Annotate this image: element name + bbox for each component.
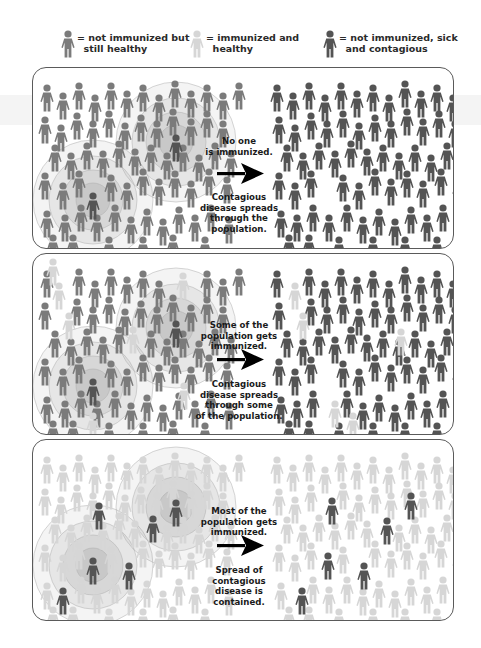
person-icon — [436, 390, 449, 417]
person-icon — [430, 84, 443, 111]
person-icon — [424, 526, 437, 553]
person-icon — [156, 404, 169, 431]
person-icon — [304, 112, 317, 139]
caption-bottom: Contagious disease spreads through the p… — [195, 192, 283, 234]
person-icon — [336, 546, 349, 573]
person-icon — [320, 306, 333, 333]
person-icon — [432, 296, 445, 323]
person-icon — [430, 270, 443, 297]
panel-no-immunization: No one is immunized. Contagious disease … — [32, 67, 454, 249]
caption-bottom: Spread of contagious disease is containe… — [195, 565, 283, 607]
person-icon — [56, 92, 69, 119]
person-icon — [340, 576, 353, 603]
person-icon — [420, 214, 433, 241]
person-icon — [350, 276, 363, 303]
person-icon — [384, 306, 397, 333]
caption-top: Some of the population gets immunized. — [195, 320, 283, 352]
person-icon — [356, 216, 369, 243]
person-icon — [306, 390, 319, 417]
person-icon — [398, 266, 411, 293]
person-icon — [334, 82, 347, 109]
person-icon — [270, 84, 283, 111]
person-icon — [392, 152, 405, 179]
person-icon — [384, 178, 397, 205]
person-icon — [434, 354, 447, 381]
person-icon-sick — [357, 562, 370, 589]
person-icon — [352, 182, 365, 209]
person-icon — [352, 122, 365, 149]
person-icon — [452, 176, 453, 203]
person-icon — [368, 300, 381, 327]
person-icon — [366, 456, 379, 483]
person-icon — [408, 144, 421, 171]
person-icon — [334, 268, 347, 295]
person-icon — [328, 336, 341, 363]
person-icon — [352, 494, 365, 521]
person-icon — [430, 422, 443, 434]
person-icon — [56, 464, 69, 491]
person-icon — [446, 466, 453, 493]
person-icon — [38, 488, 51, 515]
person-icon — [166, 234, 179, 248]
person-icon — [104, 268, 117, 295]
person-icon — [332, 236, 345, 248]
legend: = not immunized but still healthy = immu… — [0, 30, 481, 62]
person-icon — [372, 208, 385, 235]
person-icon — [232, 268, 245, 295]
person-icon — [322, 586, 335, 613]
person-icon — [440, 142, 453, 169]
person-icon — [416, 304, 429, 331]
person-icon — [302, 454, 315, 481]
person-icon — [416, 366, 429, 393]
legend-item-not-immunized-healthy: = not immunized but still healthy — [61, 30, 189, 58]
person-icon — [436, 576, 449, 603]
person-icon — [286, 92, 299, 119]
legend-label: = not immunized but still healthy — [77, 30, 189, 54]
legend-item-immunized-healthy: = immunized and healthy — [190, 30, 299, 58]
person-icon — [366, 608, 379, 620]
person-icon — [384, 364, 397, 391]
person-icon — [302, 234, 315, 248]
person-icon — [102, 110, 115, 137]
person-icon — [166, 420, 179, 434]
person-icon — [430, 608, 443, 620]
person-icon — [398, 608, 411, 620]
person-icon — [88, 94, 101, 121]
person-icon — [384, 120, 397, 147]
person-icon — [398, 236, 411, 248]
person-icon — [416, 490, 429, 517]
person-icon — [414, 90, 427, 117]
person-icon — [38, 302, 51, 329]
person-icon — [404, 206, 417, 233]
person-icon — [356, 588, 369, 615]
person-icon — [366, 270, 379, 297]
person-icon — [72, 268, 85, 295]
person-icon — [40, 456, 53, 483]
person-icon — [336, 174, 349, 201]
person-icon — [156, 590, 169, 617]
person-icon — [288, 368, 301, 395]
person-icon — [452, 362, 453, 389]
person-icon — [446, 280, 453, 307]
person-icon — [384, 492, 397, 519]
person-icon — [372, 580, 385, 607]
person-icon — [432, 482, 445, 509]
person-icon — [328, 150, 341, 177]
person-icon — [382, 466, 395, 493]
person-icon — [198, 422, 211, 434]
person-icon — [434, 540, 447, 567]
person-icon — [190, 30, 204, 58]
person-icon — [172, 206, 185, 233]
person-icon — [312, 514, 325, 541]
person-icon — [136, 608, 149, 620]
person-icon — [392, 524, 405, 551]
person-icon — [70, 112, 83, 139]
person-icon — [368, 486, 381, 513]
person-icon — [420, 586, 433, 613]
person-icon — [440, 328, 453, 355]
person-icon — [302, 82, 315, 109]
person-icon — [198, 608, 211, 620]
legend-item-sick-contagious: = not immunized, sick and contagious — [323, 30, 458, 58]
person-icon — [334, 454, 347, 481]
person-icon — [372, 394, 385, 421]
